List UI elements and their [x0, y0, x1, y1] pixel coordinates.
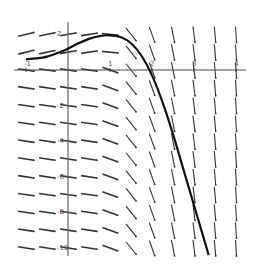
slope-segment — [102, 227, 117, 232]
svg-text:2: 2 — [57, 30, 61, 38]
slope-segment — [193, 133, 195, 149]
slope-segment — [102, 138, 117, 143]
slope-segment — [214, 115, 215, 131]
slope-segment — [39, 140, 55, 142]
slope-segment — [235, 98, 236, 114]
svg-text:-1: -1 — [24, 60, 31, 68]
slope-segment — [18, 193, 34, 195]
slope-segment — [193, 222, 195, 238]
slope-segment — [81, 87, 97, 89]
slope-segment — [171, 98, 174, 114]
slope-segment — [214, 44, 215, 60]
slope-segment — [171, 27, 174, 43]
slope-segment — [126, 153, 136, 165]
slope-segment — [39, 176, 55, 178]
slope-segment — [81, 176, 97, 178]
slope-segment — [81, 247, 97, 249]
slope-segment — [81, 140, 97, 142]
slope-segment — [235, 204, 236, 220]
slope-segment — [102, 103, 117, 108]
slope-segment — [235, 151, 236, 167]
slope-segment — [81, 229, 97, 231]
slope-segment — [126, 171, 136, 183]
slope-segment — [193, 240, 195, 256]
slope-segment — [235, 169, 236, 185]
slope-segment — [81, 33, 97, 35]
slope-segment — [81, 104, 97, 106]
slope-segment — [149, 116, 154, 131]
slope-segment — [171, 80, 174, 96]
slope-segment — [149, 169, 154, 184]
slope-segment — [149, 45, 154, 60]
slope-segment — [235, 187, 236, 203]
slope-segment — [214, 222, 215, 238]
slope-segment — [18, 211, 34, 213]
slope-segment — [214, 151, 215, 167]
slope-segment — [126, 99, 136, 111]
slope-segment — [39, 104, 55, 106]
slope-segment — [126, 82, 136, 94]
slope-segment — [102, 174, 117, 179]
slope-segment — [39, 51, 55, 54]
slope-segment — [171, 240, 174, 256]
slope-segment — [102, 51, 118, 53]
svg-text:-8: -8 — [57, 208, 64, 216]
svg-text:-2: -2 — [57, 102, 64, 110]
slope-segment — [18, 32, 34, 36]
slope-segment — [171, 151, 174, 167]
slope-segment — [171, 169, 174, 185]
slope-segment — [214, 80, 215, 96]
svg-text:4: 4 — [234, 60, 239, 68]
slope-segment — [149, 27, 154, 42]
slope-segment — [126, 224, 136, 236]
slope-segment — [214, 187, 215, 203]
slope-segment — [39, 87, 55, 89]
slope-segment — [149, 223, 154, 238]
slope-segment — [149, 134, 154, 149]
slope-segment — [214, 98, 215, 114]
slope-segment — [193, 80, 195, 96]
slope-segment — [126, 206, 136, 218]
slope-segment — [102, 121, 117, 126]
slope-segment — [18, 50, 34, 54]
slope-segment — [235, 80, 236, 96]
slope-segment — [214, 26, 215, 42]
slope-segment — [102, 156, 117, 161]
svg-text:-6: -6 — [57, 173, 65, 181]
slope-field-segments — [18, 26, 237, 256]
slope-segment — [193, 115, 195, 131]
slope-segment — [235, 115, 236, 131]
slope-segment — [81, 51, 97, 53]
slope-segment — [39, 33, 55, 36]
slope-segment — [149, 80, 154, 95]
slope-field-plot: -112342-2-4-6-8-10 — [0, 0, 258, 268]
slope-segment — [39, 193, 55, 195]
slope-segment — [39, 229, 55, 231]
slope-segment — [193, 169, 195, 185]
slope-segment — [193, 26, 195, 42]
slope-segment — [18, 140, 34, 142]
slope-segment — [102, 85, 117, 90]
slope-segment — [149, 240, 154, 255]
slope-segment — [235, 133, 236, 149]
slope-segment — [126, 242, 136, 254]
slope-segment — [39, 211, 55, 213]
slope-segment — [193, 151, 195, 167]
slope-segment — [235, 240, 236, 256]
slope-segment — [126, 28, 136, 40]
slope-segment — [171, 205, 174, 221]
slope-segment — [214, 169, 215, 185]
slope-segment — [126, 188, 136, 200]
solution-curve — [26, 35, 209, 255]
slope-segment — [171, 44, 174, 60]
slope-segment — [18, 122, 34, 124]
slope-segment — [81, 193, 97, 195]
svg-text:3: 3 — [192, 60, 196, 68]
slope-segment — [18, 176, 34, 178]
slope-segment — [18, 229, 34, 231]
slope-segment — [39, 122, 55, 124]
svg-text:1: 1 — [108, 60, 112, 68]
slope-segment — [149, 205, 154, 220]
svg-text:2: 2 — [150, 60, 154, 68]
slope-segment — [18, 158, 34, 160]
